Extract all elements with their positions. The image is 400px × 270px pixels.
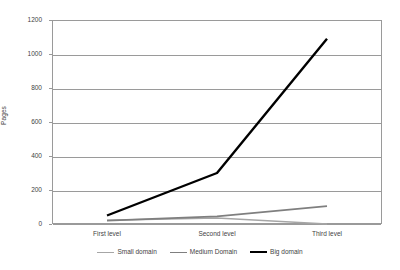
legend-item[interactable]: Small domain [97, 249, 156, 256]
legend-label: Big domain [270, 249, 303, 256]
y-axis-tick-label: 600 [31, 119, 42, 126]
x-axis-tick-label: Third level [312, 231, 342, 238]
legend-swatch-icon [170, 252, 187, 253]
y-axis-tick-label: 1000 [28, 51, 42, 58]
legend-label: Small domain [117, 249, 156, 256]
x-axis-tick-label: First level [93, 231, 121, 238]
y-axis-tick-label: 0 [38, 221, 42, 228]
line-chart: Pages 020040060080010001200 First levelS… [0, 0, 400, 270]
series-line [107, 39, 327, 216]
legend-item[interactable]: Big domain [250, 249, 303, 256]
legend-swatch-icon [250, 251, 267, 253]
series-layer [52, 20, 382, 224]
gridline [53, 224, 381, 225]
y-axis-tick-labels: 020040060080010001200 [0, 0, 48, 270]
y-axis-tick-label: 1200 [28, 17, 42, 24]
y-axis-tick-label: 400 [31, 153, 42, 160]
y-axis-tick-mark [49, 224, 52, 225]
legend-swatch-icon [97, 252, 114, 253]
legend-label: Medium Domain [190, 249, 237, 256]
y-axis-tick-label: 800 [31, 85, 42, 92]
legend-item[interactable]: Medium Domain [170, 249, 237, 256]
x-axis-tick-label: Second level [198, 231, 235, 238]
chart-legend: Small domainMedium DomainBig domain [0, 249, 400, 256]
y-axis-tick-label: 200 [31, 187, 42, 194]
